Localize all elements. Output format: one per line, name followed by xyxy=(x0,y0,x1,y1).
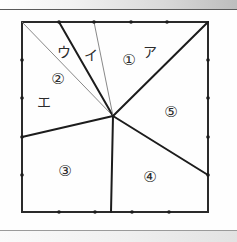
label-a: ア xyxy=(143,45,157,59)
figure-root: アイウエ①②③④⑤ xyxy=(0,0,237,242)
seg-left-to-center xyxy=(22,116,113,137)
geometry-diagram xyxy=(0,0,237,242)
edge-tick-left-1 xyxy=(20,58,24,62)
edge-tick-right-4 xyxy=(206,173,210,177)
edge-tick-left-4 xyxy=(20,173,24,177)
edge-tick-bottom-4 xyxy=(167,210,171,214)
edge-tick-right-2 xyxy=(206,96,210,100)
edge-tick-right-1 xyxy=(206,58,210,62)
region-3: ③ xyxy=(58,164,71,179)
region-4: ④ xyxy=(143,170,156,185)
edge-tick-top-3 xyxy=(129,20,133,24)
edge-tick-top-2 xyxy=(92,20,96,24)
region-5: ⑤ xyxy=(164,105,177,120)
seg-corner-tr-to-center xyxy=(113,22,208,116)
region-2: ② xyxy=(51,72,64,87)
edge-tick-right-3 xyxy=(206,135,210,139)
edge-tick-bottom-3 xyxy=(130,210,134,214)
edge-tick-left-2 xyxy=(20,96,24,100)
seg-right-to-center xyxy=(113,116,208,175)
label-u: ウ xyxy=(57,45,71,59)
edge-tick-bottom-2 xyxy=(93,210,97,214)
edge-tick-left-3 xyxy=(20,135,24,139)
edge-tick-top-1 xyxy=(57,20,61,24)
label-i: イ xyxy=(84,48,98,62)
edge-tick-top-4 xyxy=(165,20,169,24)
seg-bottom-to-center xyxy=(111,116,113,212)
scan-artifact-bottom xyxy=(0,231,237,242)
radial-segments xyxy=(22,22,208,212)
region-1: ① xyxy=(122,53,135,68)
seg-top-tick2-to-center xyxy=(94,22,113,116)
label-e: エ xyxy=(37,95,51,109)
edge-tick-bottom-1 xyxy=(57,210,61,214)
